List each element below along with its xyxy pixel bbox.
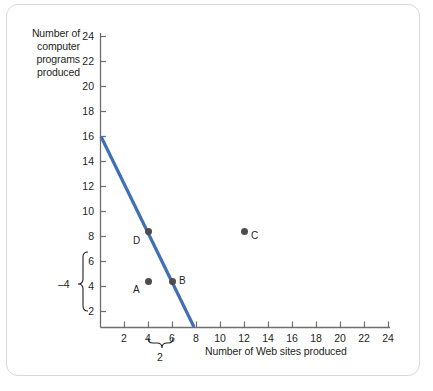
data-point-d — [145, 228, 152, 235]
data-point-label-c: C — [251, 231, 258, 241]
x-tick-label-22: 22 — [355, 333, 373, 344]
y-tick-label-18: 18 — [78, 106, 94, 117]
chart-plot-area: Number of computer programs produced Num… — [0, 0, 433, 391]
rise-annotation-label: –4 — [58, 279, 70, 290]
data-point-label-a: A — [133, 285, 140, 295]
x-tick-label-24: 24 — [379, 333, 397, 344]
x-tick-label-12: 12 — [235, 333, 253, 344]
data-point-a — [145, 278, 152, 285]
x-tick-label-14: 14 — [259, 333, 277, 344]
y-tick-label-2: 2 — [78, 306, 94, 317]
data-point-c — [241, 228, 248, 235]
x-tick-label-4: 4 — [139, 333, 157, 344]
y-tick-label-6: 6 — [78, 256, 94, 267]
y-tick-label-8: 8 — [78, 231, 94, 242]
x-tick-label-18: 18 — [307, 333, 325, 344]
x-tick-label-8: 8 — [187, 333, 205, 344]
x-tick-label-16: 16 — [283, 333, 301, 344]
y-tick-label-20: 20 — [78, 81, 94, 92]
data-point-label-d: D — [133, 236, 140, 246]
x-axis-ticks — [125, 322, 389, 328]
run-annotation-label: 2 — [157, 352, 163, 363]
y-tick-label-16: 16 — [78, 131, 94, 142]
y-tick-label-4: 4 — [78, 281, 94, 292]
data-point-b — [169, 278, 176, 285]
data-point-label-b: B — [179, 276, 186, 286]
y-tick-label-22: 22 — [78, 56, 94, 67]
y-axis-ticks — [101, 37, 107, 312]
y-tick-label-14: 14 — [78, 156, 94, 167]
x-tick-label-6: 6 — [163, 333, 181, 344]
x-tick-label-20: 20 — [331, 333, 349, 344]
x-tick-label-10: 10 — [211, 333, 229, 344]
y-tick-label-12: 12 — [78, 181, 94, 192]
y-tick-label-10: 10 — [78, 206, 94, 217]
y-tick-label-24: 24 — [78, 31, 94, 42]
x-tick-label-2: 2 — [115, 333, 133, 344]
